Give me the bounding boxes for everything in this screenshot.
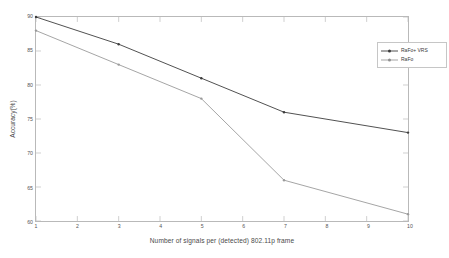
- plot-area: 90858075706560 12345678910 RaFo+ VRS RaF…: [35, 16, 409, 222]
- y-axis-title: Accuracy(%): [9, 100, 16, 137]
- data-point: [117, 63, 119, 65]
- data-point: [407, 213, 409, 215]
- y-tick-70: 70: [27, 152, 33, 157]
- legend: RaFo+ VRS RaFo: [377, 42, 447, 68]
- data-point: [35, 29, 37, 31]
- x-tick-6: 6: [242, 224, 245, 229]
- data-point: [200, 77, 202, 79]
- data-point: [35, 16, 37, 18]
- x-tick-2: 2: [76, 224, 79, 229]
- x-tick-3: 3: [118, 224, 121, 229]
- y-tick-60: 60: [27, 220, 33, 225]
- data-point: [283, 111, 285, 113]
- legend-swatch-line-series-2: [381, 56, 398, 64]
- x-tick-1: 1: [35, 224, 38, 229]
- data-point: [200, 97, 202, 99]
- series-line-2: [36, 31, 408, 215]
- legend-label-series-2: RaFo: [401, 57, 413, 62]
- series-line-1: [36, 17, 408, 133]
- x-tick-7: 7: [284, 224, 287, 229]
- figure: 90858075706560 12345678910 RaFo+ VRS RaF…: [0, 0, 449, 258]
- legend-item-series-1: RaFo+ VRS: [381, 46, 443, 55]
- y-tick-65: 65: [27, 186, 33, 191]
- x-tick-10: 10: [407, 224, 413, 229]
- data-point: [407, 131, 409, 133]
- x-tick-8: 8: [325, 224, 328, 229]
- y-tick-85: 85: [27, 49, 33, 54]
- data-point: [117, 43, 119, 45]
- y-tick-75: 75: [27, 117, 33, 122]
- x-tick-4: 4: [159, 224, 162, 229]
- x-tick-9: 9: [367, 224, 370, 229]
- legend-swatch-line-series-1: [381, 47, 398, 55]
- y-tick-80: 80: [27, 83, 33, 88]
- legend-label-series-1: RaFo+ VRS: [401, 48, 428, 53]
- data-point: [283, 179, 285, 181]
- y-tick-90: 90: [27, 14, 33, 19]
- x-axis-title: Number of signals per (detected) 802.11p…: [35, 237, 409, 244]
- data-lines: [36, 17, 408, 221]
- x-tick-5: 5: [201, 224, 204, 229]
- legend-item-series-2: RaFo: [381, 55, 443, 64]
